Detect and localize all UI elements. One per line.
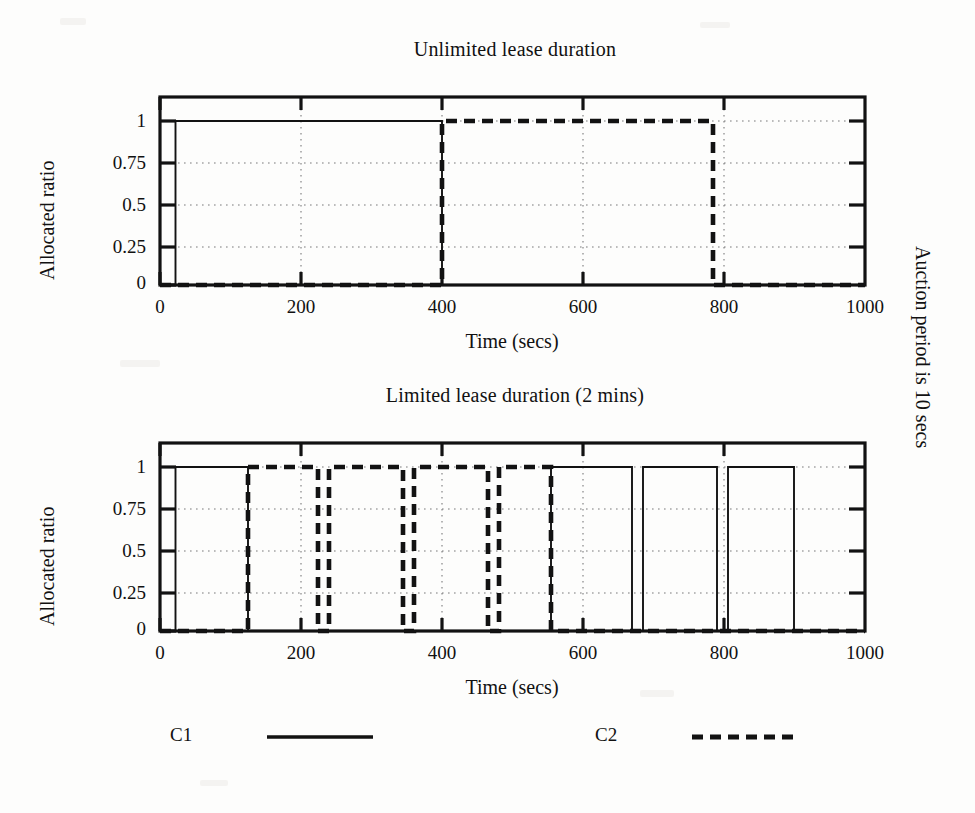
series-line-c2-chart2 (160, 467, 865, 631)
series-line-c1-chart2 (160, 467, 865, 631)
legend-label-c1: C1 (170, 724, 192, 746)
right-axis-label: Auction period is 10 secs (911, 246, 934, 448)
x-tick-label-2-400: 400 (412, 642, 472, 664)
legend-swatch-c1 (265, 732, 375, 742)
x-tick-label-2-0: 0 (130, 642, 190, 664)
legend-swatch-c2 (690, 731, 800, 743)
figure-root: Unlimited lease duration Allocated ratio… (0, 0, 975, 813)
legend-label-c2: C2 (595, 724, 617, 746)
scan-artifact (200, 780, 228, 786)
plot-area-2 (0, 0, 975, 720)
x-tick-label-2-600: 600 (553, 642, 613, 664)
x-axis-label-2: Time (secs) (362, 676, 662, 699)
x-tick-label-2-1000: 1000 (835, 642, 895, 664)
legend: C1 C2 (0, 710, 975, 760)
x-tick-label-2-200: 200 (271, 642, 331, 664)
chart-panel-limited: Limited lease duration (2 mins) Allocate… (0, 0, 975, 720)
x-tick-label-2-800: 800 (694, 642, 754, 664)
